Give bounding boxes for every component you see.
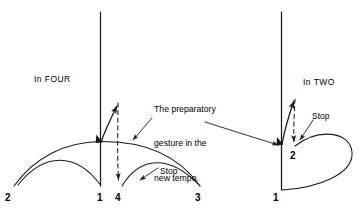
conducting-gesture-figure: In FOUR In TWO The preparatory gesture i…	[0, 0, 361, 218]
beat-number-2-left: 2	[5, 192, 11, 204]
annotation-leader-right	[205, 122, 278, 145]
beat-number-4-left: 4	[115, 192, 121, 204]
left-ictus-mark	[96, 135, 103, 144]
beat-number-1-left: 1	[97, 192, 103, 204]
beat-number-2-right: 2	[290, 150, 296, 162]
beat-number-3-left: 3	[195, 192, 201, 204]
left-arc-lower-loop	[18, 160, 101, 185]
preparatory-gesture-annotation: The preparatory gesture in the new tempo…	[154, 81, 216, 207]
left-dashed-rebound	[118, 103, 119, 180]
annotation-line-2: gesture in the	[154, 138, 216, 149]
left-preparatory-arrow	[101, 106, 117, 142]
beat-number-1-right: 1	[273, 192, 279, 204]
panel-label-in-four: In FOUR	[34, 74, 71, 84]
right-preparatory-arrow	[282, 101, 294, 144]
right-teardrop-loop	[282, 134, 352, 190]
annotation-line-1: The preparatory	[154, 104, 216, 115]
right-dashed-rebound	[294, 99, 295, 142]
stop-label-left: Stop	[160, 166, 178, 176]
left-arc-two-to-one	[14, 142, 101, 187]
panel-label-in-two: In TWO	[303, 77, 335, 87]
annotation-leader-left	[133, 118, 152, 140]
stop-label-right: Stop	[312, 111, 330, 121]
